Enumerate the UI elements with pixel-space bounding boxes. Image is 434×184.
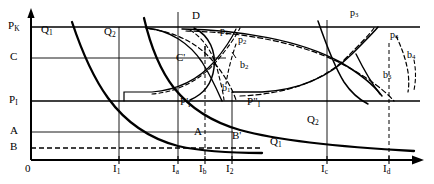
x-axis-arrowhead	[412, 156, 424, 165]
diagram-canvas	[0, 0, 434, 184]
point-label-p3: p3	[350, 8, 358, 19]
point-label-p4: p4	[390, 30, 398, 41]
x-tick-label-i1: I1	[113, 163, 120, 175]
y-axis-arrowhead	[27, 8, 34, 18]
left-broad-arc	[146, 28, 222, 101]
vertical-lines-group	[119, 12, 389, 160]
p4-b4-dashed-arc	[396, 36, 409, 92]
point-label-c-prime: C'	[176, 52, 185, 63]
point-label-d: D	[192, 10, 200, 21]
x-tick-label-ib: Ib	[199, 163, 206, 175]
point-label-p2: p2	[238, 35, 246, 46]
point-label-b-prime: B'	[232, 130, 241, 141]
diagram-figure: PK C PI A B 0 I1 Ia Ib I2 Ic Id Q1 Q2 D …	[0, 0, 434, 184]
right-upper-solid-arc	[182, 29, 382, 96]
point-label-b2: b2	[240, 60, 248, 71]
curve-label-q2-upper: Q2	[104, 26, 116, 38]
b2-tick	[232, 52, 236, 58]
point-label-a-prime: A	[194, 126, 202, 137]
y-tick-label-pi: PI	[9, 94, 18, 106]
y-tick-label-b: B	[10, 141, 17, 152]
y-tick-label-pk: PK	[8, 20, 20, 32]
x-tick-label-i2: I2	[226, 163, 233, 175]
left-solid-arc	[190, 28, 214, 100]
p2-tail-dashed	[226, 44, 236, 84]
x-tick-label-ia: Ia	[172, 163, 179, 175]
curve-label-q2-lower: Q2	[307, 114, 319, 126]
point-label-b3: b3	[383, 70, 391, 81]
origin-label: 0	[25, 163, 31, 174]
x-tick-label-ic: Ic	[321, 163, 328, 175]
p1-p2-dashed-hook	[190, 30, 224, 100]
curve-label-q1-upper: Q1	[41, 24, 53, 36]
point-label-b4: b4	[407, 50, 415, 61]
y-tick-label-a: A	[10, 125, 18, 136]
curve-label-q1-lower: Q1	[270, 136, 282, 148]
y-tick-label-c: C	[10, 51, 17, 62]
b4-outer-dashed-arc	[414, 60, 416, 90]
point-label-b1: b1	[222, 83, 230, 94]
point-label-p1: p1	[220, 26, 228, 37]
point-label-pi-prime: P'I	[180, 96, 191, 108]
x-tick-label-id: Id	[383, 163, 390, 175]
point-label-pi-double-prime: P"I	[247, 96, 260, 108]
